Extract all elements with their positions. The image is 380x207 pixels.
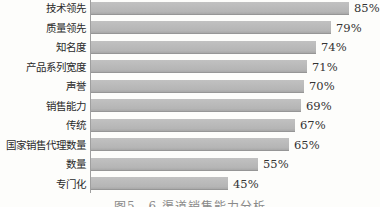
bar-row: 知名度74% (0, 40, 347, 54)
bar (91, 21, 331, 34)
bar-row: 传统67% (0, 118, 326, 132)
bar-row: 质量领先79% (0, 21, 362, 35)
bar-row: 数量55% (0, 157, 289, 171)
y-axis-line (90, 0, 91, 193)
value-label: 65% (294, 138, 320, 152)
value-label: 74% (321, 40, 347, 54)
figure-caption: 图5—6 渠道销售能力分析 (0, 197, 380, 207)
bar (91, 177, 228, 190)
bar-row: 销售能力69% (0, 99, 332, 113)
bar (91, 2, 349, 15)
category-label: 销售能力 (0, 99, 89, 113)
bar-row: 专门化45% (0, 177, 259, 191)
bar (91, 80, 304, 93)
category-label: 声誉 (0, 79, 89, 93)
bar-chart: 技术领先85%质量领先79%知名度74%产品系列宽度71%声誉70%销售能力69… (0, 0, 380, 207)
bar (91, 138, 289, 151)
value-label: 70% (309, 79, 335, 93)
category-label: 数量 (0, 157, 89, 171)
category-label: 技术领先 (0, 1, 89, 15)
bar-row: 产品系列宽度71% (0, 60, 338, 74)
bar (91, 41, 316, 54)
category-label: 产品系列宽度 (0, 60, 89, 74)
category-label: 专门化 (0, 177, 89, 191)
value-label: 67% (300, 118, 326, 132)
bar (91, 119, 295, 132)
bar-row: 国家销售代理数量65% (0, 138, 320, 152)
bar-row: 声誉70% (0, 79, 335, 93)
bar (91, 158, 258, 171)
bar (91, 99, 301, 112)
bar (91, 60, 307, 73)
category-label: 传统 (0, 118, 89, 132)
value-label: 69% (306, 99, 332, 113)
bar-row: 技术领先85% (0, 1, 380, 15)
value-label: 79% (336, 21, 362, 35)
category-label: 国家销售代理数量 (0, 138, 89, 152)
category-label: 质量领先 (0, 21, 89, 35)
value-label: 45% (233, 177, 259, 191)
category-label: 知名度 (0, 40, 89, 54)
value-label: 71% (312, 60, 338, 74)
value-label: 55% (263, 157, 289, 171)
value-label: 85% (354, 1, 380, 15)
